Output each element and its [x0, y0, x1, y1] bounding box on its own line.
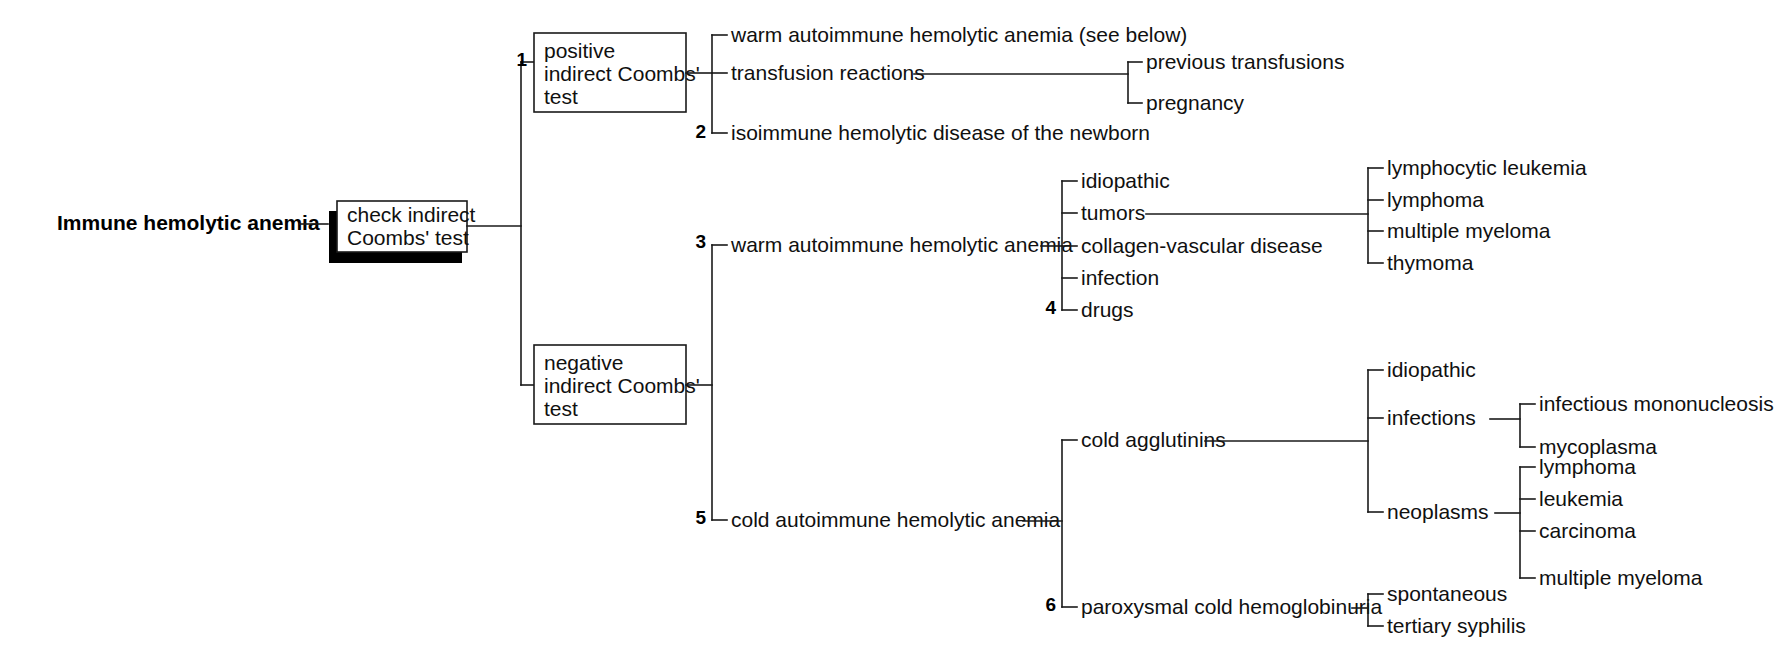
neoplasm-type-leukemia: leukemia — [1539, 487, 1623, 510]
root-label: Immune hemolytic anemia — [57, 211, 320, 234]
cold-aiha-label: cold autoimmune hemolytic anemia — [731, 508, 1060, 531]
tumor-type-lymphoma: lymphoma — [1387, 188, 1484, 211]
immune-hemolytic-anemia-tree: Immune hemolytic anemia check indirect C… — [0, 0, 1784, 672]
positive-box-line2: indirect Coombs' — [544, 62, 700, 85]
warm-cause-tumors: tumors — [1081, 201, 1145, 224]
positive-child-isoimmune-hdn: isoimmune hemolytic disease of the newbo… — [731, 121, 1150, 144]
infection-type-infectious-mononucleosis: infectious mononucleosis — [1539, 392, 1774, 415]
number-1: 1 — [516, 49, 527, 70]
positive-box-line3: test — [544, 85, 578, 108]
neoplasm-type-multiple-myeloma: multiple myeloma — [1539, 566, 1703, 589]
warm-cause-infection: infection — [1081, 266, 1159, 289]
negative-box-line2: indirect Coombs' — [544, 374, 700, 397]
neoplasm-type-lymphoma: lymphoma — [1539, 455, 1636, 478]
tumor-type-thymoma: thymoma — [1387, 251, 1474, 274]
number-5: 5 — [695, 507, 706, 528]
decision-box-line2: Coombs' test — [347, 226, 469, 249]
pch-type-spontaneous: spontaneous — [1387, 582, 1507, 605]
diagram-canvas: Immune hemolytic anemia check indirect C… — [0, 0, 1784, 672]
coldagg-cause-infections: infections — [1387, 406, 1476, 429]
positive-child-transfusion-reactions: transfusion reactions — [731, 61, 925, 84]
negative-box-line3: test — [544, 397, 578, 420]
coldagg-cause-idiopathic: idiopathic — [1387, 358, 1476, 381]
tumor-type-lymphocytic-leukemia: lymphocytic leukemia — [1387, 156, 1587, 179]
coldagg-cause-neoplasms: neoplasms — [1387, 500, 1489, 523]
cold-child-paroxysmal-cold-hemoglobinuria: paroxysmal cold hemoglobinuria — [1081, 595, 1382, 618]
warm-cause-collagen-vascular-disease: collagen-vascular disease — [1081, 234, 1323, 257]
pch-type-tertiary-syphilis: tertiary syphilis — [1387, 614, 1526, 637]
warm-cause-drugs: drugs — [1081, 298, 1134, 321]
number-4: 4 — [1045, 297, 1056, 318]
number-6: 6 — [1045, 594, 1056, 615]
tumor-type-multiple-myeloma: multiple myeloma — [1387, 219, 1551, 242]
warm-cause-idiopathic: idiopathic — [1081, 169, 1170, 192]
negative-box-line1: negative — [544, 351, 623, 374]
number-3: 3 — [695, 231, 706, 252]
positive-box-line1: positive — [544, 39, 615, 62]
warm-aiha-label: warm autoimmune hemolytic anemia — [730, 233, 1073, 256]
transfusion-child-pregnancy: pregnancy — [1146, 91, 1245, 114]
cold-child-cold-agglutinins: cold agglutinins — [1081, 428, 1226, 451]
transfusion-child-previous-transfusions: previous transfusions — [1146, 50, 1344, 73]
neoplasm-type-carcinoma: carcinoma — [1539, 519, 1636, 542]
positive-child-warm-aiha: warm autoimmune hemolytic anemia (see be… — [730, 23, 1187, 46]
number-2: 2 — [695, 121, 706, 142]
decision-box-line1: check indirect — [347, 203, 476, 226]
